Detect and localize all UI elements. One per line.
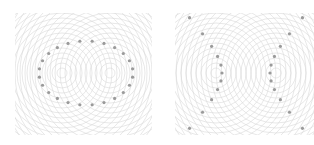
hyperbola-panel	[96, 0, 314, 145]
curve-dot	[279, 45, 282, 48]
curve-dot	[269, 79, 272, 82]
curve-dot	[56, 46, 59, 49]
curve-dot	[91, 40, 94, 43]
curve-dot	[188, 127, 191, 130]
curve-dot	[78, 103, 81, 106]
curve-dot	[122, 91, 125, 94]
curve-dot	[269, 63, 272, 66]
curve-dot	[128, 84, 131, 87]
curve-dot	[301, 16, 304, 19]
curve-dot	[288, 111, 291, 114]
curve-dot	[216, 88, 219, 91]
curve-dot	[301, 127, 304, 130]
curve-dot	[216, 55, 219, 58]
curve-dot	[131, 67, 134, 70]
curve-dot	[279, 98, 282, 101]
curve-dot	[113, 46, 116, 49]
concentric-rings	[96, 0, 314, 145]
curve-dot	[102, 101, 105, 104]
curve-dot	[210, 98, 213, 101]
curve-dot	[128, 59, 131, 62]
curve-dot	[288, 32, 291, 35]
curve-dot	[38, 67, 41, 70]
curve-dot	[201, 32, 204, 35]
curve-dot	[91, 103, 94, 106]
curve-dot	[47, 91, 50, 94]
curve-dot	[41, 84, 44, 87]
curve-dot	[273, 88, 276, 91]
curve-dot	[102, 42, 105, 45]
curve-dot	[188, 16, 191, 19]
conic-sections-diagram	[0, 0, 314, 145]
curve-dot	[220, 71, 223, 74]
curve-dot	[56, 97, 59, 100]
curve-dot	[122, 52, 125, 55]
curve-dot	[113, 97, 116, 100]
curve-dot	[268, 71, 271, 74]
curve-dot	[78, 40, 81, 43]
curve-dot	[38, 76, 41, 79]
curve-dot	[273, 55, 276, 58]
curve-dot	[47, 52, 50, 55]
curve-dot	[66, 101, 69, 104]
curve-dot	[131, 76, 134, 79]
curve-dot	[66, 42, 69, 45]
curve-dot	[219, 79, 222, 82]
curve-dot	[219, 63, 222, 66]
curve-dot	[210, 45, 213, 48]
curve-dot	[41, 59, 44, 62]
curve-dot	[201, 111, 204, 114]
